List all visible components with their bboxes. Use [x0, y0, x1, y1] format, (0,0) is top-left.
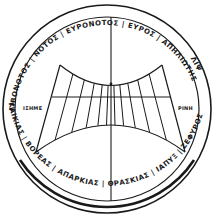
- hour-line: [98, 85, 102, 126]
- hour-line: [114, 85, 115, 125]
- hour-line: [107, 85, 109, 125]
- hour-line: [55, 74, 73, 140]
- label-left: ΙΣΗΜΕ: [23, 105, 43, 111]
- hour-line: [149, 74, 166, 140]
- label-right: ΡΙΝΗ: [178, 105, 193, 111]
- hour-line: [138, 80, 150, 132]
- hour-line: [120, 85, 124, 126]
- hour-line: [128, 83, 136, 128]
- hour-line: [86, 83, 94, 128]
- hour-line: [72, 80, 85, 132]
- sundial-diagram: ΛΙΒΟΝΟΤΟΣ | ΝΟΤΟΣ | ΕΥΡΟΝΟΤΟΣ | ΕΥΡΟΣ | …: [0, 0, 215, 218]
